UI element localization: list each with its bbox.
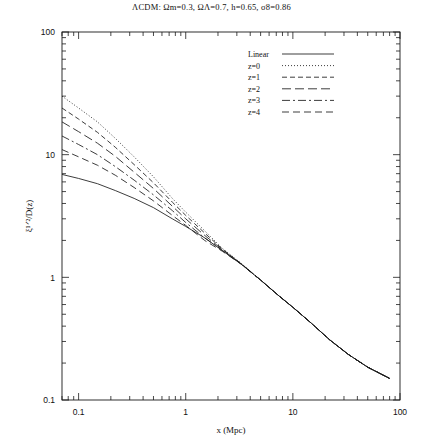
legend-label-z3: z=3 <box>248 96 260 105</box>
y-tick-label: 1 <box>50 273 55 283</box>
y-axis-label: ξ¹ᐟ²/D(z) <box>24 200 34 232</box>
y-tick-label: 0.1 <box>43 395 55 405</box>
legend-label-z2: z=2 <box>248 85 260 94</box>
x-tick-label: 10 <box>288 407 298 417</box>
legend-label-z1: z=1 <box>248 73 260 82</box>
figure-canvas: ΛCDM: Ωm=0.3, ΩΛ=0.7, h=0.65, σ8=0.86 0.… <box>0 0 423 442</box>
plot-frame <box>62 32 400 400</box>
y-tick-label: 100 <box>41 27 55 37</box>
x-tick-label: 1 <box>183 407 188 417</box>
curve-z3 <box>62 136 390 378</box>
legend-label-z0: z=0 <box>248 62 260 71</box>
curve-z1 <box>62 108 390 378</box>
curve-z0 <box>62 96 390 378</box>
legend-label-linear: Linear <box>248 50 269 59</box>
x-tick-label: 100 <box>393 407 407 417</box>
curve-z2 <box>62 122 390 379</box>
plot-area: 0.11101000.1110100x (Mpc)ξ¹ᐟ²/D(z)Linear… <box>0 0 423 442</box>
x-axis-label: x (Mpc) <box>216 425 245 435</box>
x-tick-label: 0.1 <box>73 407 85 417</box>
y-tick-label: 10 <box>46 150 56 160</box>
legend-label-z4: z=4 <box>248 108 260 117</box>
curve-z4 <box>62 150 390 379</box>
